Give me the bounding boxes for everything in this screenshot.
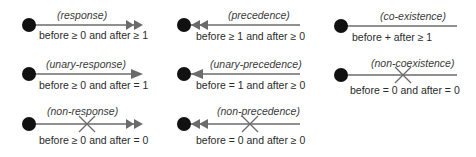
arrowhead-icon bbox=[199, 20, 208, 30]
constraint-non-precedence: (non-precedence) before = 0 and after ≥ … bbox=[177, 105, 306, 146]
constraint-label: (unary-precedence) bbox=[210, 58, 302, 70]
constraint-condition: before = 0 and after ≥ 0 bbox=[196, 134, 306, 146]
activity-dot-icon bbox=[334, 19, 348, 33]
constraint-unary-response: (unary-response) before ≥ 0 and after = … bbox=[22, 58, 149, 91]
arrowhead-icon bbox=[134, 119, 143, 129]
constraint-precedence: (precedence) before ≥ 1 and after ≥ 0 bbox=[177, 9, 305, 42]
constraint-label: (precedence) bbox=[228, 9, 290, 21]
constraint-legend-diagram: (response) before ≥ 0 and after ≥ 1 (pre… bbox=[0, 0, 476, 157]
constraint-condition: before = 0 and after = 0 bbox=[350, 84, 460, 96]
arrowhead-icon bbox=[191, 69, 203, 79]
activity-dot-icon bbox=[177, 67, 191, 81]
constraint-label: (response) bbox=[57, 9, 107, 21]
arrowhead-icon bbox=[199, 119, 208, 129]
constraint-label: (non-response) bbox=[47, 105, 118, 117]
constraint-response: (response) before ≥ 0 and after ≥ 1 bbox=[22, 9, 148, 41]
constraint-label: (co-existence) bbox=[380, 10, 446, 22]
arrowhead-icon bbox=[126, 119, 134, 129]
constraint-condition: before ≥ 0 and after = 1 bbox=[39, 79, 149, 91]
constraint-condition: before ≥ 0 and after = 0 bbox=[39, 134, 149, 146]
activity-dot-icon bbox=[334, 68, 348, 82]
constraint-condition: before ≥ 1 and after ≥ 0 bbox=[196, 30, 305, 42]
constraint-non-response: (non-response) before ≥ 0 and after = 0 bbox=[22, 105, 149, 146]
activity-dot-icon bbox=[22, 67, 36, 81]
constraint-label: (unary-response) bbox=[46, 58, 126, 70]
activity-dot-icon bbox=[22, 117, 36, 131]
constraint-co-existence: (co-existence) before + after ≥ 1 bbox=[334, 10, 457, 43]
constraint-condition: before ≥ 0 and after ≥ 1 bbox=[39, 29, 148, 41]
activity-dot-icon bbox=[177, 117, 191, 131]
activity-dot-icon bbox=[177, 18, 191, 32]
constraint-unary-precedence: (unary-precedence) before = 1 and after … bbox=[177, 58, 306, 91]
arrowhead-icon bbox=[191, 119, 200, 129]
constraint-label: (non-precedence) bbox=[217, 105, 300, 117]
arrowhead-icon bbox=[131, 69, 143, 79]
constraint-label: (non-coexistence) bbox=[371, 57, 454, 69]
constraint-condition: before = 1 and after ≥ 0 bbox=[196, 79, 306, 91]
constraint-non-coexistence: (non-coexistence) before = 0 and after =… bbox=[334, 57, 460, 96]
constraint-condition: before + after ≥ 1 bbox=[352, 31, 432, 43]
activity-dot-icon bbox=[22, 18, 36, 32]
arrowhead-icon bbox=[191, 20, 200, 30]
